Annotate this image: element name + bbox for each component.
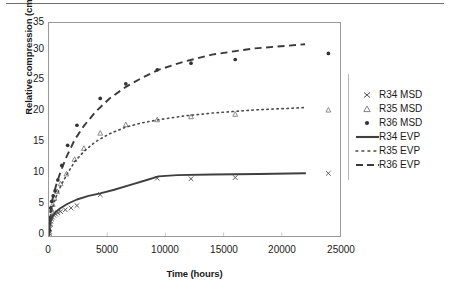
legend-label-r36-msd: R36 MSD: [379, 116, 422, 130]
legend-item-r34-msd[interactable]: R34 MSD: [355, 88, 447, 102]
line-solid-icon: [355, 130, 379, 144]
line-dotted-icon: [355, 144, 379, 158]
x-tick-15000: 15000: [194, 245, 254, 255]
legend-item-r35-msd[interactable]: R35 MSD: [355, 102, 447, 116]
x-tick-5000: 5000: [77, 245, 137, 255]
series-r35-msd: [49, 107, 331, 234]
marker-triangle-icon: [355, 102, 379, 116]
series-r36-evp: [49, 44, 305, 236]
marker-dot-icon: [355, 116, 379, 130]
top-divider-rule: [6, 3, 444, 4]
legend-item-r36-evp[interactable]: R36 EVP: [355, 158, 447, 172]
legend-label-r34-evp: R34 EVP: [379, 130, 420, 144]
x-tick-25000: 25000: [311, 245, 371, 255]
y-tick-10: 10: [4, 167, 44, 177]
legend-label-r34-msd: R34 MSD: [379, 88, 422, 102]
legend-label-r35-evp: R35 EVP: [379, 144, 420, 158]
legend: R34 MSD R35 MSD R36 MSD: [355, 88, 447, 172]
plot-area: [48, 22, 341, 237]
legend-label-r36-evp: R36 EVP: [379, 158, 420, 172]
legend-item-r35-evp[interactable]: R35 EVP: [355, 144, 447, 158]
legend-item-r36-msd[interactable]: R36 MSD: [355, 116, 447, 130]
series-r36-msd: [49, 52, 330, 232]
series-r34-evp: [49, 173, 305, 236]
y-tick-30: 30: [4, 44, 44, 54]
chart-figure: Relative compression (cm) 35 30 25 20 15…: [0, 0, 450, 291]
y-tick-15: 15: [4, 136, 44, 146]
x-tick-0: 0: [18, 245, 78, 255]
plot-canvas: [49, 23, 340, 236]
legend-item-r34-evp[interactable]: R34 EVP: [355, 130, 447, 144]
legend-divider: [348, 74, 349, 180]
line-dashed-icon: [355, 158, 379, 172]
x-tick-10000: 10000: [135, 245, 195, 255]
y-tick-35: 35: [4, 17, 44, 27]
x-axis-label: Time (hours): [48, 268, 341, 279]
x-tick-20000: 20000: [252, 245, 312, 255]
series-r34-msd: [49, 171, 331, 236]
y-tick-20: 20: [4, 105, 44, 115]
legend-label-r35-msd: R35 MSD: [379, 102, 422, 116]
marker-x-icon: [355, 88, 379, 102]
series-r35-evp: [49, 108, 305, 236]
y-tick-5: 5: [4, 198, 44, 208]
y-tick-0: 0: [4, 229, 44, 239]
y-tick-25: 25: [4, 74, 44, 84]
